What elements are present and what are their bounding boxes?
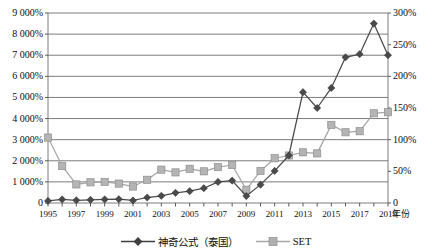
data-point-marker-diamond	[59, 196, 66, 203]
data-point-marker-square	[115, 180, 122, 187]
x-axis-tick-label: 2003	[147, 210, 175, 219]
x-axis-tick-label: 2009	[232, 210, 260, 219]
x-axis-tick-label: 2013	[289, 210, 317, 219]
x-axis-tick-label: 2005	[176, 210, 204, 219]
data-point-marker-square	[59, 162, 66, 169]
data-point-marker-diamond	[200, 185, 207, 192]
data-point-marker-diamond	[144, 194, 151, 201]
data-point-marker-square	[87, 179, 94, 186]
data-point-marker-diamond	[101, 196, 108, 203]
y-axis-left-tick-label: 7 000%	[12, 50, 43, 60]
data-point-marker-square	[271, 155, 278, 162]
x-axis-tick-label: 2007	[204, 210, 232, 219]
y-axis-right-tick-label: 100%	[393, 135, 416, 145]
y-axis-right-tick-label: 0	[393, 198, 398, 208]
y-axis-left-tick-label: 8 000%	[12, 29, 43, 39]
legend-label-set: SET	[293, 236, 312, 247]
legend-marker-square-icon	[256, 236, 290, 247]
data-point-marker-square	[342, 129, 349, 136]
chart-container: 9 000%8 000%7 000%6 000%5 000%4 000%3 00…	[0, 0, 432, 251]
x-axis-tick-label: 2017	[346, 210, 374, 219]
data-point-marker-diamond	[384, 52, 391, 59]
data-point-marker-square	[200, 168, 207, 175]
data-point-marker-square	[229, 161, 236, 168]
data-point-marker-square	[328, 121, 335, 128]
x-axis-tick-label: 2015	[317, 210, 345, 219]
data-point-marker-diamond	[214, 178, 221, 185]
x-axis-tick-label: 1995	[34, 210, 62, 219]
legend-label-magic-formula: 神奇公式（泰国）	[158, 234, 238, 249]
data-point-marker-square	[314, 150, 321, 157]
data-point-marker-square	[144, 176, 151, 183]
y-axis-left-tick-label: 3 000%	[12, 135, 43, 145]
y-axis-left-tick-label: 6 000%	[12, 71, 43, 81]
x-axis-tick-label: 1999	[91, 210, 119, 219]
y-axis-right-tick-label: 150%	[393, 103, 416, 113]
data-point-marker-square	[73, 181, 80, 188]
x-axis-tick-label: 1997	[62, 210, 90, 219]
data-point-marker-diamond	[186, 188, 193, 195]
legend-item-set: SET	[256, 236, 312, 247]
data-point-marker-square	[257, 167, 264, 174]
data-point-marker-square	[101, 178, 108, 185]
data-point-marker-square	[214, 164, 221, 171]
legend-marker-diamond-icon	[121, 236, 155, 247]
y-axis-left-tick-label: 2 000%	[12, 156, 43, 166]
data-point-marker-square	[299, 149, 306, 156]
y-axis-left-tick-label: 9 000%	[12, 8, 43, 18]
series-line-magic-formula	[48, 24, 388, 201]
legend-item-magic-formula: 神奇公式（泰国）	[121, 234, 238, 249]
data-point-marker-square	[129, 183, 136, 190]
y-axis-left-tick-label: 1 000%	[12, 177, 43, 187]
y-axis-right-tick-label: 250%	[393, 40, 416, 50]
y-axis-left-tick-label: 4 000%	[12, 114, 43, 124]
data-point-marker-square	[158, 166, 165, 173]
data-point-marker-square	[384, 109, 391, 116]
data-point-marker-diamond	[356, 51, 363, 58]
y-axis-left-tick-label: 0	[38, 198, 43, 208]
y-axis-right-tick-label: 300%	[393, 8, 416, 18]
data-point-marker-diamond	[370, 20, 377, 27]
data-point-marker-diamond	[115, 196, 122, 203]
data-point-marker-square	[356, 128, 363, 135]
data-point-marker-square	[370, 110, 377, 117]
x-axis-title: 年份	[392, 210, 410, 219]
data-point-marker-square	[186, 165, 193, 172]
data-point-marker-diamond	[158, 192, 165, 199]
y-axis-left-tick-label: 5 000%	[12, 92, 43, 102]
y-axis-right-tick-label: 200%	[393, 71, 416, 81]
data-point-marker-square	[172, 169, 179, 176]
chart-legend: 神奇公式（泰国） SET	[0, 234, 432, 249]
y-axis-right-tick-label: 50%	[393, 166, 411, 176]
data-point-marker-square	[44, 134, 51, 141]
x-axis-tick-label: 2001	[119, 210, 147, 219]
data-point-marker-diamond	[87, 196, 94, 203]
x-axis-tick-label: 2011	[261, 210, 289, 219]
data-point-marker-diamond	[172, 189, 179, 196]
